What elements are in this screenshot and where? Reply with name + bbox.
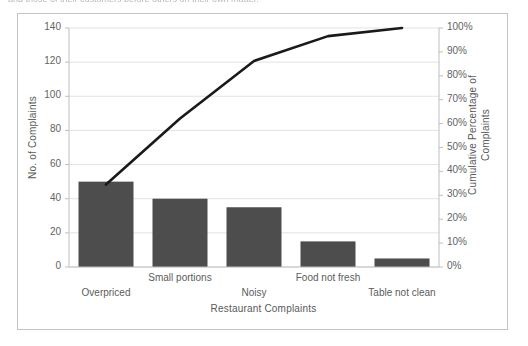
y-axis-right-tick-label: 0% xyxy=(447,260,491,271)
y-axis-right-tick-label: 70% xyxy=(447,93,491,104)
y-axis-right-tick-label: 80% xyxy=(447,69,491,80)
y-axis-right-tick-label: 90% xyxy=(447,45,491,56)
y-axis-right-tick-label: 10% xyxy=(447,236,491,247)
y-axis-right-tick-label: 30% xyxy=(447,188,491,199)
x-axis-category-label-1: Small portions xyxy=(123,272,237,283)
bar-2 xyxy=(227,207,282,267)
cut-off-caption-text: and those of their customers before othe… xyxy=(8,0,428,5)
y-axis-right-tick-label: 50% xyxy=(447,141,491,152)
y-axis-left-tick-label: 140 xyxy=(21,21,61,32)
bar-0 xyxy=(79,182,134,267)
y-axis-left-tick-label: 0 xyxy=(21,260,61,271)
y-axis-right-tick-label: 100% xyxy=(447,21,491,32)
bar-4 xyxy=(375,258,430,267)
bar-1 xyxy=(153,199,208,267)
x-axis-category-label-4: Table not clean xyxy=(345,287,459,298)
bar-3 xyxy=(301,241,356,267)
y-axis-left-tick-label: 100 xyxy=(21,89,61,100)
y-axis-left-tick-label: 40 xyxy=(21,192,61,203)
y-axis-left-tick-label: 60 xyxy=(21,158,61,169)
x-axis-category-label-0: Overpriced xyxy=(49,287,163,298)
y-axis-left-title: No. of Complaints xyxy=(27,63,38,213)
y-axis-right-tick-label: 60% xyxy=(447,117,491,128)
x-axis-category-label-2: Noisy xyxy=(197,287,311,298)
y-axis-right-tick-label: 20% xyxy=(447,212,491,223)
x-axis-category-label-3: Food not fresh xyxy=(271,272,385,283)
cumulative-line-group xyxy=(106,28,402,185)
cut-off-caption-label: and those of their customers before othe… xyxy=(8,0,428,4)
y-axis-right-tick-label: 40% xyxy=(447,164,491,175)
pareto-chart-canvas xyxy=(18,14,509,331)
x-axis-title: Restaurant Complaints xyxy=(18,303,509,314)
pareto-chart-frame: No. of Complaints Cumulative Percentage … xyxy=(17,13,508,330)
cumulative-percentage-line xyxy=(106,28,402,185)
y-axis-left-tick-label: 80 xyxy=(21,123,61,134)
y-axis-left-tick-label: 120 xyxy=(21,55,61,66)
y-axis-left-tick-label: 20 xyxy=(21,226,61,237)
bars-group xyxy=(79,182,430,267)
